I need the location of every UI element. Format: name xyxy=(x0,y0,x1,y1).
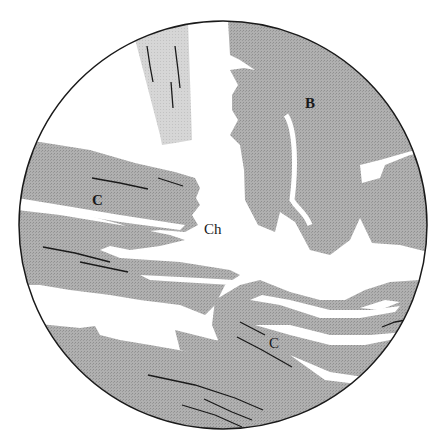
label-c-lower: C xyxy=(269,335,279,351)
label-c-upper: C xyxy=(92,192,103,208)
label-ch: Ch xyxy=(204,221,222,237)
microscope-field-diagram: B C Ch C xyxy=(0,0,446,448)
label-b: B xyxy=(305,95,315,111)
field-of-view: B C Ch C xyxy=(0,0,446,448)
region-b xyxy=(228,20,440,255)
